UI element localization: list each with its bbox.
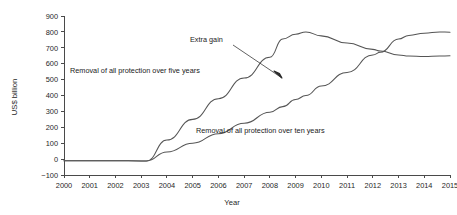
y-axis-title: US$ billion <box>10 79 19 115</box>
x-tick-label: 2001 <box>82 181 98 190</box>
y-tick-label: 0 <box>54 155 58 164</box>
y-axis-ticks: −1000100200300400500600700800900 <box>41 12 64 180</box>
y-tick-label: 400 <box>46 91 58 100</box>
extra-gain-arrow-icon <box>274 71 282 78</box>
x-tick-label: 2010 <box>313 181 329 190</box>
series-line <box>64 32 450 161</box>
chart-container: US$ billion −100010020030040050060070080… <box>0 0 457 215</box>
y-tick-label: 900 <box>46 12 58 21</box>
x-tick-label: 2003 <box>133 181 149 190</box>
extra-gain-leader-line <box>233 45 282 78</box>
y-tick-label: 600 <box>46 59 58 68</box>
annotation-ten-years: Removal of all protection over ten years <box>196 126 325 135</box>
x-tick-label: 2013 <box>390 181 406 190</box>
y-tick-label: −100 <box>41 171 58 180</box>
x-tick-label: 2008 <box>262 181 278 190</box>
series-lines <box>64 32 450 161</box>
x-tick-label: 2009 <box>287 181 303 190</box>
x-axis-title: Year <box>224 198 240 207</box>
y-tick-label: 500 <box>46 75 58 84</box>
series-line <box>64 32 450 161</box>
x-tick-label: 2002 <box>107 181 123 190</box>
x-tick-label: 2006 <box>210 181 226 190</box>
y-tick-label: 300 <box>46 107 58 116</box>
x-tick-label: 2004 <box>159 181 175 190</box>
x-tick-label: 2014 <box>416 181 432 190</box>
x-tick-label: 2005 <box>184 181 200 190</box>
y-tick-label: 800 <box>46 28 58 37</box>
y-tick-label: 200 <box>46 123 58 132</box>
annotation-five-years: Removal of all protection over five year… <box>70 66 200 75</box>
line-chart: US$ billion −100010020030040050060070080… <box>0 0 457 215</box>
y-tick-label: 700 <box>46 44 58 53</box>
y-axis-title-group: US$ billion <box>10 79 19 115</box>
x-tick-label: 2015 <box>442 181 457 190</box>
x-tick-label: 2007 <box>236 181 252 190</box>
x-tick-label: 2011 <box>339 181 355 190</box>
y-tick-label: 100 <box>46 139 58 148</box>
x-tick-label: 2000 <box>56 181 72 190</box>
x-axis-ticks: 2000200120022003200420052006200720082009… <box>56 175 457 190</box>
x-tick-label: 2012 <box>365 181 381 190</box>
annotation-extra-gain: Extra gain <box>190 35 223 44</box>
